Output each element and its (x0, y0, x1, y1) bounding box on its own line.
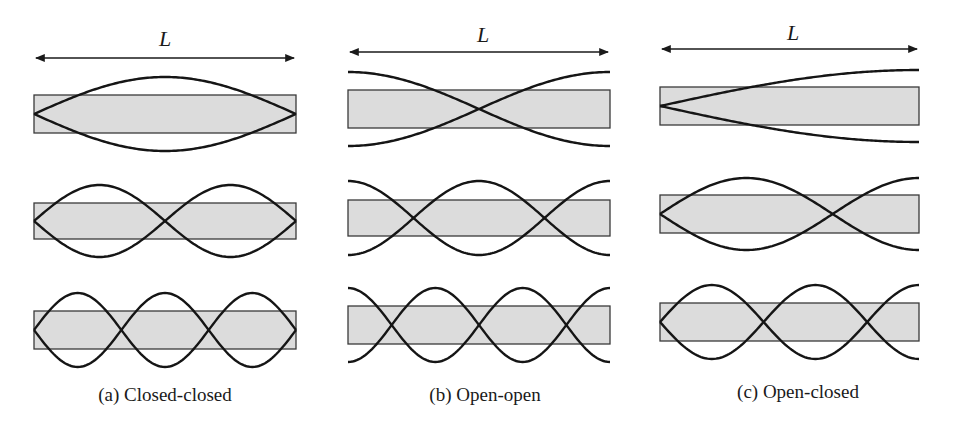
mode-1 (348, 72, 610, 146)
mode-3 (660, 178, 919, 250)
mode-3 (348, 288, 610, 362)
mode-2 (348, 181, 610, 255)
panel-open-closed: L (c) Open-closed (660, 20, 919, 403)
mode-5 (660, 285, 919, 359)
panel-caption: (c) Open-closed (737, 381, 859, 403)
rod (660, 195, 919, 233)
rod (660, 87, 919, 125)
mode-shapes (34, 77, 296, 367)
panel-caption: (b) Open-open (429, 384, 541, 406)
mode-2 (34, 185, 296, 257)
length-label: L (786, 20, 799, 45)
length-label: L (476, 22, 489, 47)
rod (34, 311, 296, 349)
rod (34, 95, 296, 133)
panel-closed-closed: L (a) Closed-closed (34, 26, 296, 406)
standing-wave-diagram: L (a) Closed-closed L (b) Open-open L (c… (0, 0, 956, 431)
panel-caption: (a) Closed-closed (98, 384, 232, 406)
mode-shapes (660, 70, 919, 359)
mode-shapes (348, 72, 610, 362)
panel-open-open: L (b) Open-open (348, 22, 610, 406)
mode-1 (660, 70, 919, 142)
length-label: L (158, 26, 171, 51)
mode-3 (34, 293, 296, 367)
mode-1 (34, 77, 296, 151)
rod (348, 200, 610, 236)
